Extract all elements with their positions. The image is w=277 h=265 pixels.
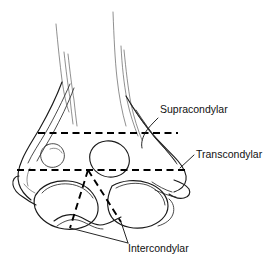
anatomical-figure: Supracondylar Transcondylar Intercondyla…: [0, 0, 277, 265]
distal-humerus-diagram: Supracondylar Transcondylar Intercondyla…: [0, 0, 277, 265]
capitulum: [108, 181, 174, 229]
label-supracondylar: Supracondylar: [160, 103, 228, 115]
label-transcondylar: Transcondylar: [196, 148, 263, 160]
label-intercondylar: Intercondylar: [128, 242, 189, 254]
cortical-shading: [24, 84, 177, 193]
humeral-shaft: [56, 12, 142, 140]
transcondylar-leader-line: [180, 155, 194, 168]
medial-fossa: [41, 144, 65, 168]
olecranon-fossa: [90, 141, 130, 177]
trochlea: [34, 181, 98, 230]
